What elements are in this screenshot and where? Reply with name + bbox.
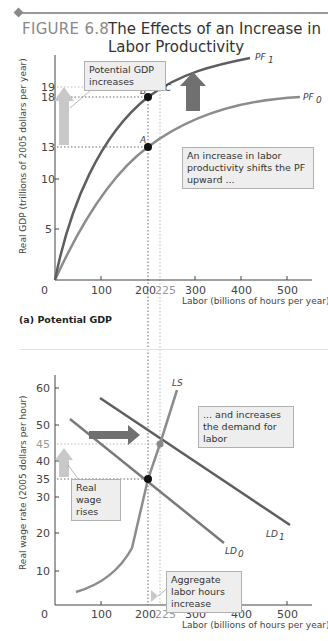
- gdp-increase-arrow-icon: [54, 87, 74, 145]
- panel-a-label: (a) Potential GDP: [19, 314, 112, 325]
- svg-text:18: 18: [41, 91, 55, 104]
- svg-text:200: 200: [135, 284, 156, 297]
- svg-text:10: 10: [36, 565, 50, 578]
- svg-text:0: 0: [41, 608, 48, 621]
- svg-text:225: 225: [155, 284, 176, 297]
- labor-demand-callout: ... and increases the demand for labor: [198, 406, 294, 448]
- panel-b-x-axis-label: Labor (billions of hours per year): [182, 620, 328, 630]
- svg-text:20: 20: [36, 527, 50, 540]
- svg-text:PF: PF: [303, 92, 314, 102]
- svg-text:0: 0: [238, 549, 244, 559]
- productivity-shift-callout: An increase in labor productivity shifts…: [182, 147, 314, 189]
- svg-text:0: 0: [41, 284, 48, 297]
- svg-text:5: 5: [45, 223, 52, 236]
- svg-text:LD: LD: [266, 529, 278, 539]
- real-wage-callout: Real wage rises: [71, 479, 121, 521]
- labor-hours-callout: Aggregate labor hours increase: [166, 571, 242, 613]
- equilibrium-point-0: [144, 475, 152, 483]
- svg-text:60: 60: [36, 382, 50, 395]
- svg-text:0: 0: [316, 95, 322, 105]
- svg-text:13: 13: [41, 141, 55, 154]
- svg-text:30: 30: [36, 491, 50, 504]
- svg-text:C: C: [165, 83, 172, 93]
- svg-text:50: 50: [36, 419, 50, 432]
- panel-a-x-axis-label: Labor (billions of hours per year): [182, 296, 328, 306]
- panel-a-y-axis-label: Real GDP (trillions of 2005 dollars per …: [18, 58, 28, 254]
- svg-text:35: 35: [36, 473, 50, 486]
- potential-gdp-callout: Potential GDP increases: [84, 61, 166, 91]
- panel-separator: [20, 349, 328, 350]
- svg-text:200: 200: [135, 608, 156, 621]
- svg-text:PF: PF: [255, 52, 266, 62]
- svg-text:10: 10: [41, 173, 55, 186]
- svg-text:1: 1: [279, 532, 285, 542]
- equilibrium-point-1: [157, 441, 164, 448]
- svg-text:A: A: [139, 135, 146, 145]
- panel-a-chart: 19 18 13 10 5 0 100 200 225 300 400 500 …: [18, 52, 328, 605]
- svg-text:100: 100: [91, 608, 112, 621]
- hours-increase-arrow-icon: [151, 590, 158, 602]
- svg-text:LD: LD: [225, 546, 237, 556]
- panel-b-y-axis-label: Real wage rate (2005 dollars per hour): [18, 395, 28, 570]
- wage-rise-arrow-icon: [55, 448, 73, 477]
- shift-up-arrow-icon: [180, 72, 206, 111]
- svg-text:45: 45: [36, 438, 50, 451]
- svg-text:1: 1: [268, 55, 274, 65]
- svg-text:40: 40: [36, 455, 50, 468]
- svg-text:100: 100: [91, 284, 112, 297]
- svg-text:LS: LS: [172, 378, 183, 388]
